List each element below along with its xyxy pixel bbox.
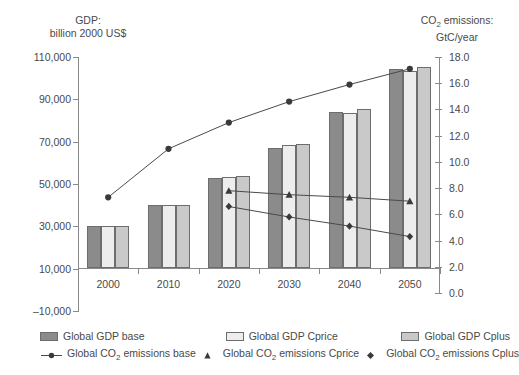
line-path-triangle (229, 191, 410, 202)
legend-label-co2-cplus-pre: Global CO (386, 347, 435, 359)
legend-label-co2-cplus-post: emissions Cplus (440, 347, 519, 359)
right-axis-tick-label: 2.0 (449, 261, 464, 273)
right-axis-tick-label: 16.0 (449, 77, 469, 89)
legend-item-gdp-cprice: Global GDP Cprice (226, 330, 402, 342)
right-axis-title-post: emissions: (441, 14, 494, 26)
legend-label-gdp-cprice: Global GDP Cprice (249, 330, 338, 342)
line-path-diamond (229, 207, 410, 237)
data-point-diamond (346, 223, 353, 230)
legend-item-co2-base: Global CO2 emissions base (40, 347, 196, 364)
right-axis-tick-label: 0.0 (449, 287, 464, 299)
legend-label-gdp-base: Global GDP base (63, 330, 145, 342)
right-axis-tick-label: 10.0 (449, 156, 469, 168)
right-axis-title-line1: CO2 emissions: (398, 14, 516, 31)
left-axis-tick-label: 90,000 (39, 93, 71, 105)
left-axis-title-line1: GDP: (28, 14, 148, 27)
right-axis-title-line2: GtC/year (398, 31, 516, 44)
legend-label-co2-cplus: Global CO2 emissions Cplus (386, 347, 519, 364)
data-point-circle (346, 81, 352, 87)
right-axis-title-pre: CO (421, 14, 437, 26)
data-point-diamond (286, 213, 293, 220)
right-axis-tick-label: 8.0 (449, 182, 464, 194)
data-point-circle (226, 119, 232, 125)
data-point-circle (407, 66, 413, 72)
bar-swatch-cprice-icon (226, 332, 244, 341)
legend-label-co2-base-pre: Global CO (67, 347, 116, 359)
legend-label-gdp-cplus: Global GDP Cplus (424, 330, 510, 342)
legend-item-co2-cprice: Global CO2 emissions Cprice (196, 347, 359, 364)
right-axis-title: CO2 emissions: GtC/year (398, 14, 516, 44)
data-point-circle (165, 146, 171, 152)
left-axis-title-line2: billion 2000 US$ (28, 27, 148, 40)
legend-label-co2-cprice: Global CO2 emissions Cprice (223, 347, 359, 364)
legend-item-gdp-base: Global GDP base (40, 330, 226, 342)
plot-area: –10,00010,00030,00050,00070,00090,000110… (78, 57, 440, 311)
category-tick (440, 268, 441, 274)
data-point-diamond (407, 233, 414, 240)
legend-item-co2-cplus: Global CO2 emissions Cplus (359, 347, 519, 364)
bar-swatch-base-icon (40, 332, 58, 341)
right-axis-tick-label: 4.0 (449, 235, 464, 247)
left-axis-tick-label: 70,000 (39, 136, 71, 148)
legend-label-co2-base-post: emissions base (120, 347, 195, 359)
data-point-circle (105, 194, 111, 200)
legend-label-co2-cprice-pre: Global CO (223, 347, 272, 359)
right-axis-tick-label: 12.0 (449, 130, 469, 142)
legend-row-lines: Global CO2 emissions base Global CO2 emi… (40, 347, 510, 364)
line-series-overlay (78, 57, 440, 311)
left-axis-title: GDP: billion 2000 US$ (28, 14, 148, 40)
line-diamond-marker-icon (359, 350, 382, 361)
right-axis-tick-label: 14.0 (449, 103, 469, 115)
bar-swatch-cplus-icon (401, 332, 419, 341)
line-path-circle (108, 69, 410, 198)
legend-label-co2-cprice-post: emissions Cprice (276, 347, 359, 359)
line-triangle-marker-icon (196, 350, 219, 361)
data-point-diamond (226, 203, 233, 210)
left-axis-tick-label: 30,000 (39, 220, 71, 232)
left-axis-tick-label: –10,000 (33, 305, 71, 317)
legend-label-co2-base: Global CO2 emissions base (67, 347, 196, 364)
data-point-circle (286, 98, 292, 104)
line-circle-marker-icon (40, 350, 63, 361)
chart-legend: Global GDP base Global GDP Cprice Global… (40, 330, 510, 369)
left-axis-tick-label: 110,000 (34, 51, 71, 63)
right-axis-tick-label: 6.0 (449, 208, 464, 220)
left-axis-tick (73, 311, 79, 312)
left-axis-tick-label: 50,000 (39, 178, 71, 190)
right-axis-tick-label: 18.0 (449, 51, 469, 63)
legend-item-gdp-cplus: Global GDP Cplus (401, 330, 510, 342)
left-axis-tick-label: 10,000 (39, 263, 71, 275)
legend-row-bars: Global GDP base Global GDP Cprice Global… (40, 330, 510, 342)
